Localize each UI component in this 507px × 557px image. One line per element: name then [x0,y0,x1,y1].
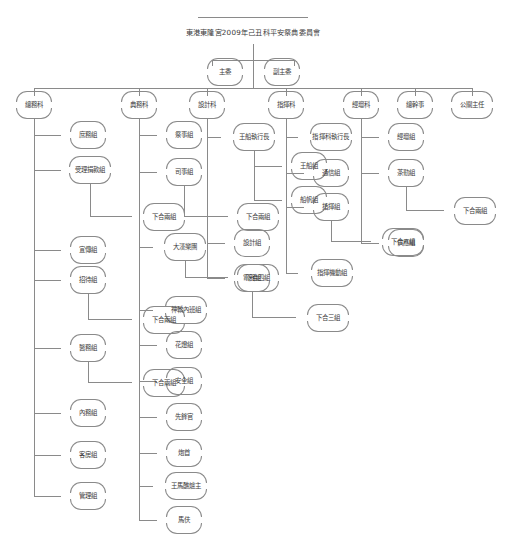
col2-branch-8 [139,453,157,454]
node-design-item-4[interactable]: 設計組 [225,230,279,256]
node-ceremony-item-7[interactable]: 先鋒官 [157,404,211,430]
department-label: 總幹事 [404,102,427,109]
node-general-affairs-item-7[interactable]: 客房組 [61,442,115,468]
department-label: 總務科 [23,102,46,109]
node-label: 下合三組 [314,315,343,322]
node-sutra-sub-2[interactable]: 下合兩組 [443,198,507,224]
node-general-affairs-item-6[interactable]: 內務組 [61,400,115,426]
node-general-affairs-item-2[interactable]: 受理捐款組 [58,157,122,183]
node-ceremony-item-9[interactable]: 王馬醮爐主 [154,473,218,499]
col1-branch-2 [34,170,61,171]
chair-label: 主委 [217,69,233,76]
node-label: 下合兩組 [244,214,273,221]
col1-branch-1 [34,135,61,136]
node-general-affairs-item-3[interactable]: 宣傳組 [61,237,115,263]
node-ceremony-item-5[interactable]: 花燈組 [157,332,211,358]
node-label: 宣傳組 [77,247,100,254]
center-spine [253,60,254,88]
node-department-command[interactable]: 指揮科 [259,92,313,118]
department-label: 典務科 [128,102,151,109]
node-label: 客房組 [77,452,100,459]
col1-branch-8 [34,496,61,497]
node-sutra-item-1[interactable]: 經壇組 [379,124,433,150]
col1-sub-elbow-4 [88,293,132,320]
node-label: 招待組 [77,277,100,284]
col3-branch-1 [207,137,221,138]
node-department-ceremony-affairs[interactable]: 典務科 [112,92,166,118]
col4-branch-4 [286,273,298,274]
col1-sub-elbow-2 [90,183,132,217]
col5-branch-1 [361,137,379,138]
org-chart-canvas: 東港東隆宮2009年己丑科平安祭典委員會 主委 副主委 總務科 典務科 設計科 … [0,0,507,557]
node-label: 受理捐款組 [73,167,108,174]
node-command-item-1[interactable]: 指揮科執行長 [299,124,363,150]
node-general-affairs-item-4[interactable]: 招待組 [61,267,115,293]
col1-branch-4 [34,280,61,281]
node-command-item-4[interactable]: 指揮機動組 [300,260,364,286]
col2-branch-3 [139,247,153,248]
col5-branch-3 [361,243,379,244]
title-stem [253,44,254,60]
node-label: 王船組 [298,163,321,170]
department-label: 設計科 [196,102,219,109]
node-vice-chair[interactable]: 副主委 [255,59,309,85]
node-label: 內務組 [77,410,100,417]
col1-branch-6 [34,413,61,414]
col2-branch-10 [139,520,157,521]
col3-sub-elbow [252,291,296,318]
department-bus [34,88,472,89]
col2-branch-9 [139,486,153,487]
col2-spine [139,118,140,520]
col5-branch-2 [361,173,379,174]
node-chair[interactable]: 主委 [198,59,252,85]
node-label: 神轎內班組 [169,307,204,314]
chart-title-node: 東港東隆宮2009年己丑科平安祭典委員會 [168,22,338,44]
col3-sub-branch-1 [254,166,282,167]
node-sutra-item-2[interactable]: 茶勤組 [379,160,433,186]
node-label: 電器組 [241,275,264,282]
node-label: 花燈組 [173,342,196,349]
node-label: 管理組 [77,493,100,500]
node-label: 安全組 [173,378,196,385]
node-department-public-relations[interactable]: 公關主任 [440,92,504,118]
node-label: 祭事組 [173,132,196,139]
col3-branch-2 [207,243,225,244]
node-general-affairs-item-5[interactable]: 醫務組 [61,335,115,361]
node-label: 茶勤組 [395,170,418,177]
node-label: 設計組 [241,240,264,247]
department-label: 指揮科 [275,102,298,109]
col1-sub-elbow-5 [88,361,132,383]
node-department-general-affairs[interactable]: 總務科 [7,92,61,118]
node-label: 王馬醮爐主 [169,483,204,490]
node-label: 大漢樂團 [171,244,200,251]
node-label: 船帆組 [298,197,321,204]
node-ceremony-item-8[interactable]: 炮首 [157,440,211,466]
node-design-item-1[interactable]: 王船執行長 [222,124,286,150]
col2-branch-5 [139,345,157,346]
node-ceremony-item-1[interactable]: 祭事組 [157,122,211,148]
node-ceremony-sub-2[interactable]: 下合兩組 [226,204,290,230]
col3-spine [207,118,208,278]
node-ceremony-item-10[interactable]: 馬伕 [157,507,211,533]
node-design-sub-5[interactable]: 下合三組 [296,305,360,331]
node-ceremony-item-2[interactable]: 司事組 [157,159,211,185]
node-label: 指揮機動組 [315,270,350,277]
col5-sub-elbow [406,186,444,211]
node-department-sutra-altar[interactable]: 經壇科 [334,92,388,118]
department-label: 經壇科 [350,102,373,109]
node-label: 炮首 [176,450,192,457]
node-label: 王船執行長 [237,134,272,141]
department-label: 公關主任 [458,102,487,109]
node-label: 馬伕 [176,517,192,524]
node-general-affairs-item-8[interactable]: 管理組 [61,483,115,509]
node-label: 庶務組 [77,132,100,139]
node-label: 指揮組 [320,204,343,211]
node-label: 下合兩組 [150,214,179,221]
node-department-secretary-general[interactable]: 總幹事 [388,92,442,118]
node-label: 經壇組 [395,134,418,141]
node-department-design[interactable]: 設計科 [180,92,234,118]
col2-branch-7 [139,417,157,418]
chart-title: 東港東隆宮2009年己丑科平安祭典委員會 [184,29,322,37]
node-general-affairs-item-1[interactable]: 庶務組 [61,122,115,148]
col3-sub-spine [254,150,255,200]
